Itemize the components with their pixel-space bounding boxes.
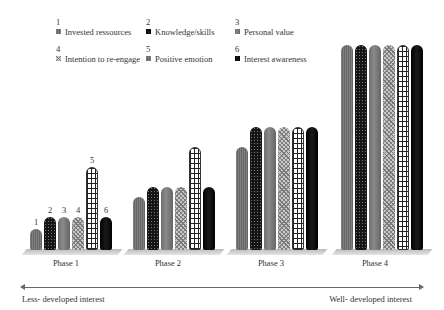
development-axis-line [22,287,420,288]
bar-1-6 [100,217,112,250]
legend-item-1: 1Invested ressources [56,17,131,37]
bar-2-3 [161,187,173,250]
phase-label-2: Phase 2 [128,258,208,268]
legend-item-2: 2Knowledge/skills [146,17,215,37]
well-developed-caption: Well- developed interest [329,294,412,304]
legend-item-4: 4Intention to re-engage [56,44,140,64]
bar-3-1 [236,147,248,250]
bar-1-2 [44,217,56,250]
arrow-left-icon [20,284,25,290]
legend-swatch-icon [146,29,151,34]
legend-label: Personal value [244,27,294,37]
bar-2-5 [189,147,201,250]
arrow-right-icon [419,284,424,290]
bar-1-1 [30,229,42,250]
legend-number: 1 [56,17,131,27]
legend-label: Interest awareness [244,54,307,64]
legend-swatch-icon [56,29,61,34]
legend-item-3: 3Personal value [235,17,294,37]
phase-label-1: Phase 1 [26,258,106,268]
bar-number-4: 4 [72,205,84,215]
bar-4-5 [397,45,409,250]
bar-4-6 [411,45,423,250]
bar-4-1 [341,45,353,250]
legend-number: 3 [235,17,294,27]
bar-4-3 [369,45,381,250]
legend-item-5: 5Positive emotion [146,44,212,64]
bar-number-1: 1 [30,217,42,227]
bar-number-2: 2 [44,205,56,215]
bar-number-3: 3 [58,205,70,215]
legend-label: Knowledge/skills [155,27,215,37]
bar-2-2 [147,187,159,250]
legend-number: 4 [56,44,140,54]
legend-swatch-icon [146,56,151,61]
legend-number: 2 [146,17,215,27]
legend-swatch-icon [235,56,240,61]
legend-label: Invested ressources [65,27,131,37]
phase-label-3: Phase 3 [231,258,311,268]
bar-number-6: 6 [100,205,112,215]
bar-3-6 [306,127,318,250]
less-developed-caption: Less- developed interest [22,294,105,304]
legend-item-6: 6Interest awareness [235,44,307,64]
bar-1-4 [72,217,84,250]
phase-label-4: Phase 4 [335,258,415,268]
bar-4-2 [355,45,367,250]
legend-swatch-icon [235,29,240,34]
bar-2-4 [175,187,187,250]
bar-2-6 [203,187,215,250]
bar-3-2 [250,127,262,250]
bar-1-3 [58,217,70,250]
legend-number: 5 [146,44,212,54]
legend-swatch-icon [56,56,61,61]
bar-3-4 [278,127,290,250]
bar-1-5 [86,167,98,250]
bar-4-4 [383,45,395,250]
legend-label: Positive emotion [155,54,212,64]
bar-number-5: 5 [86,155,98,165]
bar-2-1 [133,197,145,250]
bar-3-5 [292,127,304,250]
legend-label: Intention to re-engage [65,54,140,64]
legend-number: 6 [235,44,307,54]
bar-3-3 [264,127,276,250]
